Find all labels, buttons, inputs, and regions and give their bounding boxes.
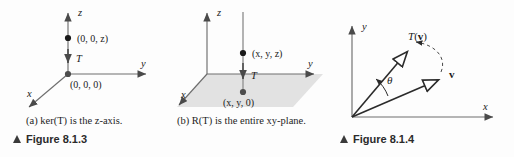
- figure-label-8-1-4: Figure 8.1.4: [340, 133, 414, 145]
- point-origin-dot: [65, 71, 71, 77]
- vector-Tv-arrow: [352, 52, 407, 117]
- panel-c-diagram: y x v T(v) θ: [330, 0, 514, 130]
- panel-b-diagram: z y x (x, y, z) T (x, y, 0): [171, 0, 330, 115]
- point-projected-label: (x, y, 0): [223, 97, 254, 109]
- vector-v-arrow: [352, 80, 438, 117]
- y-axis-label: y: [361, 21, 367, 32]
- panel-c: y x v T(v) θ Figure 8.1.4: [330, 0, 514, 157]
- point-upper-dot: [240, 50, 246, 56]
- vector-Tv-label: T(v): [408, 30, 427, 43]
- figure-label-8-1-3: Figure 8.1.3: [13, 133, 87, 145]
- map-arrow-label-T: T: [76, 53, 83, 64]
- panel-a: z y x (0, 0, z) T (0, 0, 0) (a) ker(T) i…: [0, 0, 171, 157]
- vector-v-label: v: [449, 68, 455, 80]
- panel-b: z y x (x, y, z) T (x, y, 0) (b) R(T) is …: [171, 0, 330, 157]
- panel-a-diagram: z y x (0, 0, z) T (0, 0, 0): [0, 0, 171, 115]
- y-axis-label: y: [307, 58, 313, 69]
- point-origin-label: (0, 0, 0): [70, 79, 102, 91]
- angle-theta-label: θ: [387, 74, 393, 86]
- x-axis-label: x: [180, 89, 186, 100]
- triangle-marker-icon: [13, 135, 21, 143]
- z-axis-label: z: [77, 7, 82, 18]
- figure-sheet: z y x (0, 0, z) T (0, 0, 0) (a) ker(T) i…: [0, 0, 514, 157]
- figure-label-text: Figure 8.1.3: [26, 133, 87, 145]
- panel-b-caption: (b) R(T) is the entire xy-plane.: [177, 115, 306, 127]
- y-axis-label: y: [140, 58, 146, 69]
- point-upper-label: (x, y, z): [252, 48, 282, 60]
- x-axis-label: x: [26, 88, 32, 99]
- point-upper-dot: [65, 35, 71, 41]
- triangle-marker-icon: [340, 135, 348, 143]
- figure-label-text: Figure 8.1.4: [353, 133, 414, 145]
- x-axis-label: x: [482, 101, 488, 112]
- point-projected-dot: [240, 89, 246, 95]
- point-upper-label: (0, 0, z): [77, 33, 108, 45]
- rotation-arc-dashed: [416, 42, 443, 72]
- panel-a-caption: (a) ker(T) is the z-axis.: [26, 115, 123, 127]
- z-axis-label: z: [216, 7, 221, 18]
- x-axis-line: [29, 74, 68, 107]
